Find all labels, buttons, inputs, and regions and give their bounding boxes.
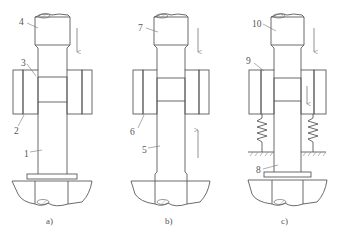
caption-c: c) (281, 216, 288, 226)
die (249, 70, 326, 114)
label-10: 10 (252, 19, 262, 29)
upper-punch (154, 14, 188, 70)
spring-left (257, 114, 267, 152)
powder (274, 78, 301, 101)
label-6: 6 (130, 127, 135, 137)
label-5: 5 (142, 145, 147, 155)
base (131, 181, 210, 206)
label-8: 8 (256, 165, 261, 175)
label-9: 9 (246, 56, 251, 66)
lower-punch (155, 101, 187, 181)
panel-b: 7 6 5 b) (130, 14, 210, 226)
label-7: 7 (138, 23, 143, 33)
panel-c: 10 9 8 c) (246, 14, 327, 226)
lower-punch (264, 101, 311, 177)
label-4: 4 (19, 17, 24, 27)
caption-a: a) (46, 216, 53, 226)
label-2: 2 (14, 126, 19, 136)
upper-punch (271, 14, 304, 70)
springs (248, 114, 326, 156)
caption-b: b) (165, 216, 173, 226)
powder (38, 77, 67, 102)
base (12, 181, 92, 206)
spring-right (308, 114, 318, 152)
powder (157, 78, 185, 101)
panel-a: 4 3 2 1 a) (12, 14, 92, 226)
base (248, 180, 327, 206)
upper-punch (35, 14, 70, 70)
powder-compaction-diagram: 4 3 2 1 a) 7 (0, 0, 337, 238)
label-1: 1 (24, 149, 29, 159)
die (133, 70, 209, 114)
label-3: 3 (21, 58, 26, 68)
